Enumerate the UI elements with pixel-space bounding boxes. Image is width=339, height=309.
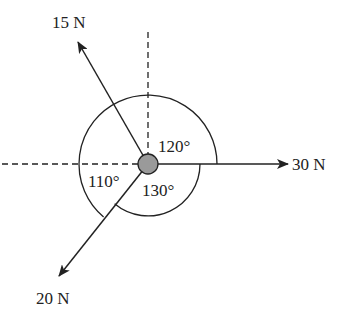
particle xyxy=(138,154,158,174)
force-label-15n: 15 N xyxy=(52,13,86,32)
force-label-30n: 30 N xyxy=(292,155,326,174)
force-label-20n: 20 N xyxy=(36,289,70,308)
angle-label-130: 130° xyxy=(142,181,174,200)
force-vector-15n xyxy=(78,42,148,164)
angle-label-110: 110° xyxy=(88,172,120,191)
force-diagram: 15 N 30 N 20 N 120° 130° 110° xyxy=(0,0,339,309)
angle-label-120: 120° xyxy=(158,137,190,156)
